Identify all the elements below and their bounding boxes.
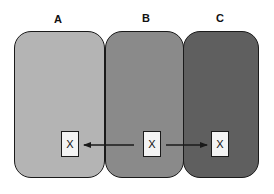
- x-box-c: X: [211, 131, 229, 157]
- panel-a: [14, 31, 105, 178]
- x-box-b: X: [143, 131, 161, 157]
- x-box-a: X: [61, 131, 79, 157]
- label-b: B: [136, 12, 156, 24]
- label-a: A: [48, 13, 68, 25]
- label-c: C: [210, 12, 230, 24]
